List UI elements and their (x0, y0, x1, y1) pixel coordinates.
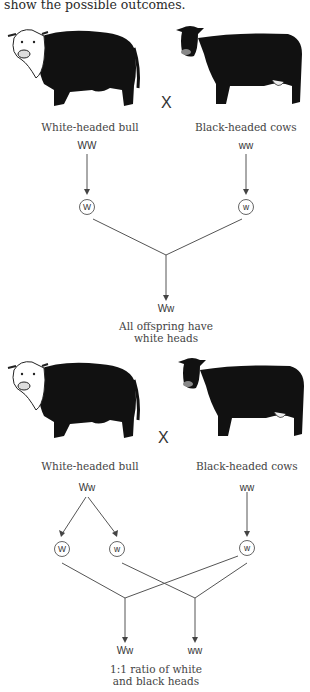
offspring-genotype: ww (180, 645, 210, 656)
diagram-lines (0, 0, 310, 692)
outcome-caption: 1:1 ratio of white and black heads (90, 663, 222, 687)
offspring-genotype: Ww (110, 645, 140, 656)
outcome-caption: All offspring have white heads (100, 320, 232, 344)
bull-label: White-headed bull (40, 460, 140, 472)
caption-line: white heads (100, 332, 232, 344)
bull-icon (8, 30, 139, 106)
cow-genotype: ww (231, 140, 261, 151)
bull-icon (8, 362, 139, 438)
cow-icon (176, 26, 302, 104)
bull-label: White-headed bull (40, 121, 140, 133)
bull-genotype: WW (72, 140, 102, 151)
gamete-circle: W (79, 199, 95, 215)
cow-icon (178, 358, 304, 436)
cross-symbol: X (161, 94, 172, 112)
gamete-circle: W (54, 541, 70, 557)
gamete-circle: w (239, 540, 255, 556)
gamete-circle: w (109, 541, 125, 557)
cow-genotype: ww (232, 482, 262, 493)
offspring-genotype: Ww (151, 303, 181, 314)
cross-symbol: X (158, 429, 169, 447)
caption-line: and black heads (90, 675, 222, 687)
cow-label: Black-headed cows (195, 121, 295, 133)
cow-label: Black-headed cows (196, 460, 296, 472)
gamete-circle: w (238, 199, 254, 215)
caption-line: 1:1 ratio of white (90, 663, 222, 675)
caption-line: All offspring have (100, 320, 232, 332)
bull-genotype: Ww (72, 482, 102, 493)
